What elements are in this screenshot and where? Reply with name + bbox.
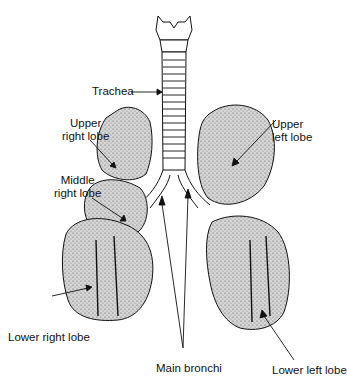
label-main-bronchi: Main bronchi — [156, 362, 222, 375]
label-lower-left-lobe: Lower left lobe — [272, 364, 347, 377]
label-line: Middle — [54, 174, 101, 187]
label-line: right lobe — [54, 187, 101, 200]
lungs-diagram — [0, 0, 347, 387]
label-line: Upper — [272, 118, 312, 131]
label-middle-right-lobe: Middle right lobe — [54, 174, 101, 200]
label-upper-right-lobe: Upper right lobe — [62, 117, 109, 143]
lower-left-lobe-shape — [207, 216, 290, 329]
label-trachea: Trachea — [92, 85, 134, 98]
label-lower-right-lobe: Lower right lobe — [8, 331, 90, 344]
label-line: Upper — [62, 117, 109, 130]
label-upper-left-lobe: Upper left lobe — [272, 118, 312, 144]
upper-left-lobe-shape — [198, 105, 275, 204]
label-line: right lobe — [62, 130, 109, 143]
label-line: left lobe — [272, 131, 312, 144]
larynx — [156, 16, 192, 52]
lower-right-lobe-shape — [62, 219, 152, 321]
